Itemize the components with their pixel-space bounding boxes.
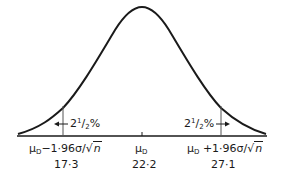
mean-label: μD <box>135 143 147 156</box>
sqrt-n: n <box>93 141 102 155</box>
tail-sup: 1 <box>77 117 81 125</box>
right-arrow-icon <box>225 122 230 127</box>
mu-symbol: μ <box>187 142 194 155</box>
bell-curve <box>18 7 266 134</box>
right-tail-label: 21/2% <box>184 118 214 131</box>
upper-limit-value: 27·1 <box>211 159 236 170</box>
tail-num: 2 <box>70 117 77 130</box>
lower-limit-value: 17·3 <box>54 159 79 170</box>
tail-pct: % <box>204 117 214 130</box>
formula-text: −1·96σ/ <box>41 142 85 155</box>
mu-symbol: μ <box>29 142 36 155</box>
tail-num: 2 <box>184 117 191 130</box>
mu-sub: D <box>142 148 147 156</box>
left-arrow-icon <box>54 122 59 127</box>
sqrt-n: n <box>254 141 263 155</box>
lower-limit-formula: μD−1·96σ/√n <box>29 143 102 156</box>
left-tail-label: 21/2% <box>70 118 100 131</box>
mu-symbol: μ <box>135 142 142 155</box>
upper-limit-formula: μD +1·96σ/√n <box>187 143 263 156</box>
tail-pct: % <box>90 117 100 130</box>
mean-value: 22·2 <box>132 159 157 170</box>
formula-text: +1·96σ/ <box>199 142 247 155</box>
tail-sup: 1 <box>191 117 195 125</box>
